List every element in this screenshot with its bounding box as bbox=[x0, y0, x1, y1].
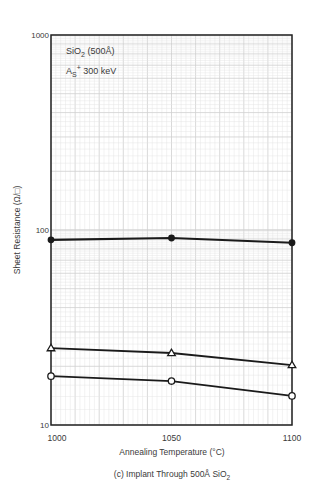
data-point-filled-circle bbox=[48, 236, 55, 243]
svg-text:AS+ 300 keV: AS+ 300 keV bbox=[66, 64, 116, 78]
y-tick-label: 1000 bbox=[31, 31, 49, 40]
sheet-resistance-chart: SiO2 (500Å) AS+ 300 keV 101001000 100010… bbox=[0, 0, 315, 495]
x-tick-label: 1050 bbox=[162, 433, 181, 443]
data-point-open-circle bbox=[289, 393, 295, 399]
x-tick-label: 1000 bbox=[48, 433, 67, 443]
y-axis-label: Sheet Resistance (Ω/□) bbox=[12, 186, 22, 275]
data-point-filled-circle bbox=[289, 239, 296, 246]
annotation-implant: AS+ 300 keV bbox=[66, 64, 116, 78]
data-point-open-circle bbox=[168, 378, 174, 384]
x-tick-label: 1100 bbox=[283, 433, 302, 443]
y-tick-label: 100 bbox=[36, 226, 50, 235]
x-axis-label: Annealing Temperature (°C) bbox=[119, 447, 224, 457]
x-axis-ticks: 100010501100 bbox=[48, 433, 302, 443]
svg-text:(c) Implant Through 500Å SiO2: (c) Implant Through 500Å SiO2 bbox=[114, 469, 231, 481]
chart-canvas: SiO2 (500Å) AS+ 300 keV 101001000 100010… bbox=[0, 0, 315, 495]
y-tick-label: 10 bbox=[40, 421, 49, 430]
grid bbox=[51, 35, 292, 425]
y-axis-ticks: 101001000 bbox=[31, 31, 49, 430]
data-point-open-circle bbox=[48, 373, 54, 379]
data-point-filled-circle bbox=[168, 235, 175, 242]
figure-caption: (c) Implant Through 500Å SiO2 bbox=[114, 469, 231, 481]
